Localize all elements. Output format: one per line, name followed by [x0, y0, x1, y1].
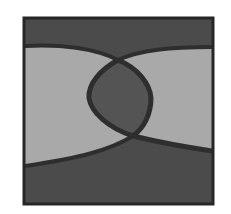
- figure: [0, 0, 231, 214]
- lens-diagram: [0, 0, 231, 214]
